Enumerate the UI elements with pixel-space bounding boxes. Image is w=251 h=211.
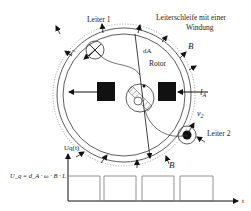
formula-label: U_q = d_A · ω · B · L — [10, 172, 66, 179]
magnet-left — [97, 82, 115, 101]
label-title-1: Leiterschleife mit einer — [156, 13, 226, 22]
label-la: lA — [200, 87, 207, 98]
label-leiter1: Leiter 1 — [87, 15, 111, 24]
label-da: dA — [143, 47, 152, 55]
conductor-2 — [178, 123, 196, 144]
voltage-chart: Uq(t) t U_q = d_A · ω · B · L — [10, 144, 244, 205]
x-axis-label: t — [242, 197, 244, 205]
magnet-right — [158, 82, 176, 101]
label-title-2: Windung — [186, 23, 214, 32]
rotor — [126, 84, 154, 112]
label-b-top: B — [188, 41, 194, 51]
label-leiter2: Leiter 2 — [207, 129, 231, 138]
y-axis-label: Uq(t) — [64, 144, 80, 152]
label-v2: v2 — [197, 109, 204, 119]
label-b-bottom: B — [169, 160, 175, 170]
generator-diagram: Leiter 1 Leiterschleife mit einer Windun… — [0, 0, 251, 211]
label-rotor: Rotor — [149, 59, 167, 68]
